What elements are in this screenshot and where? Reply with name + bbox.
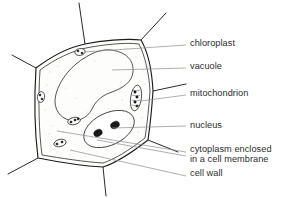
label-cytoplasm: cytoplasm enclosed in a cell membrane bbox=[190, 144, 272, 165]
label-mitochondrion: mitochondrion bbox=[190, 88, 248, 98]
label-cell-wall: cell wall bbox=[190, 168, 223, 178]
label-vacuole: vacuole bbox=[190, 61, 222, 71]
plant-cell-diagram: chloroplast vacuole mitochondrion nucleu… bbox=[0, 0, 294, 198]
label-chloroplast: chloroplast bbox=[190, 38, 235, 48]
diagram-canvas bbox=[0, 0, 294, 198]
label-nucleus: nucleus bbox=[190, 120, 222, 130]
